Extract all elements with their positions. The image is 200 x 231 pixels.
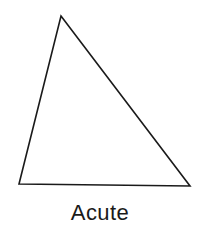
acute-triangle-shape — [19, 16, 190, 186]
triangle-diagram — [0, 0, 200, 231]
figure-caption: Acute — [0, 200, 200, 226]
figure-canvas: Acute — [0, 0, 200, 231]
